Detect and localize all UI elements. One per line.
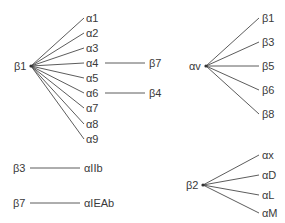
- alphaIEAb-label: αIEAb: [84, 197, 114, 209]
- beta1-fan-lines: [29, 18, 84, 139]
- cross-link-lines: [105, 63, 145, 93]
- alphav-beta1-label: β1: [262, 12, 274, 24]
- alpha9-label: α9: [86, 133, 98, 145]
- alphav-beta5-label: β5: [262, 60, 274, 72]
- alpha7-label: α7: [86, 102, 98, 114]
- alpha4-label: α4: [86, 57, 98, 69]
- beta4-crosslink-label: β4: [149, 87, 161, 99]
- alphaIIb-label: αIIb: [84, 162, 103, 174]
- beta7-crosslink-label: β7: [149, 57, 161, 69]
- beta1-hub-label: β1: [14, 60, 26, 72]
- alpha6-label: α6: [86, 87, 98, 99]
- alphav-fan-lines: [204, 18, 259, 114]
- alpha2-label: α2: [86, 27, 98, 39]
- alphaM-label: αM: [262, 207, 278, 219]
- alphaL-label: αL: [262, 189, 274, 201]
- alphaD-label: αD: [262, 169, 276, 181]
- alpha5-label: α5: [86, 72, 98, 84]
- beta2-hub-label: β2: [186, 179, 198, 191]
- alphav-beta6-label: β6: [262, 84, 274, 96]
- connector-lines: [0, 0, 285, 223]
- alpha1-label: α1: [86, 12, 98, 24]
- beta3-hub-label: β3: [13, 162, 25, 174]
- beta7-hub-label: β7: [13, 197, 25, 209]
- integrin-diagram: β1 α1 α2 α3 α4 α5 α6 α7 α8 α9 β7 β4 αv β…: [0, 0, 285, 223]
- alphav-beta3-label: β3: [262, 36, 274, 48]
- single-link-lines: [30, 168, 80, 203]
- alpha8-label: α8: [86, 118, 98, 130]
- alphav-beta8-label: β8: [262, 108, 274, 120]
- alphav-hub-label: αv: [189, 60, 201, 72]
- alpha3-label: α3: [86, 42, 98, 54]
- beta2-fan-lines: [201, 155, 259, 213]
- alphax-label: αx: [262, 149, 274, 161]
